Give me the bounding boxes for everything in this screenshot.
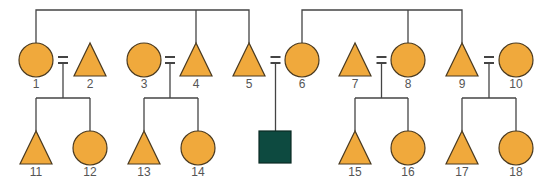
individual-7: 7 [339, 43, 371, 91]
individual-5: 5 [233, 43, 265, 91]
triangle-symbol [20, 131, 52, 164]
mating-5-6 [271, 57, 281, 131]
triangle-symbol [339, 131, 371, 164]
individual-6: 6 [285, 43, 319, 91]
individual-affected [259, 131, 291, 163]
individual-label: 10 [509, 77, 523, 91]
individual-label: 5 [246, 77, 253, 91]
triangle-symbol [446, 43, 478, 76]
generation-3: 1112131415161718 [20, 131, 533, 179]
individual-17: 17 [446, 131, 478, 179]
individual-13: 13 [128, 131, 160, 179]
mating-lines [36, 57, 516, 131]
individual-label: 1 [33, 77, 40, 91]
individual-label: 14 [191, 165, 205, 179]
female-circle [73, 131, 107, 165]
triangle-symbol [180, 43, 212, 76]
individual-label: 6 [299, 77, 306, 91]
individual-3: 3 [127, 43, 161, 91]
individual-16: 16 [391, 131, 425, 179]
female-circle [391, 43, 425, 77]
sibship-line-right [302, 10, 462, 43]
female-circle [391, 131, 425, 165]
individual-label: 12 [83, 165, 97, 179]
triangle-symbol [128, 131, 160, 164]
individual-1: 1 [19, 43, 53, 91]
pedigree-diagram: 12345678910 1112131415161718 [0, 0, 551, 190]
triangle-symbol [339, 43, 371, 76]
individual-label: 4 [193, 77, 200, 91]
individual-9: 9 [446, 43, 478, 91]
individual-label: 16 [401, 165, 415, 179]
triangle-symbol [233, 43, 265, 76]
individual-12: 12 [73, 131, 107, 179]
female-circle [499, 43, 533, 77]
individual-label: 9 [459, 77, 466, 91]
female-circle [19, 43, 53, 77]
affected-square [259, 131, 291, 163]
individual-18: 18 [499, 131, 533, 179]
triangle-symbol [446, 131, 478, 164]
sibship-lines-top [36, 10, 462, 43]
triangle-symbol [74, 43, 106, 76]
individual-label: 2 [87, 77, 94, 91]
individual-label: 11 [30, 165, 43, 179]
individual-15: 15 [339, 131, 371, 179]
individual-10: 10 [499, 43, 533, 91]
individual-label: 3 [141, 77, 148, 91]
female-circle [285, 43, 319, 77]
individual-11: 11 [20, 131, 52, 179]
female-circle [127, 43, 161, 77]
individual-label: 15 [348, 165, 362, 179]
individual-2: 2 [74, 43, 106, 91]
sibship-line-left [36, 10, 249, 43]
individual-label: 17 [455, 165, 469, 179]
female-circle [499, 131, 533, 165]
individual-label: 18 [509, 165, 523, 179]
individual-4: 4 [180, 43, 212, 91]
individual-label: 13 [137, 165, 151, 179]
female-circle [181, 131, 215, 165]
individual-8: 8 [391, 43, 425, 91]
individual-14: 14 [181, 131, 215, 179]
individual-label: 8 [405, 77, 412, 91]
individual-label: 7 [352, 77, 359, 91]
